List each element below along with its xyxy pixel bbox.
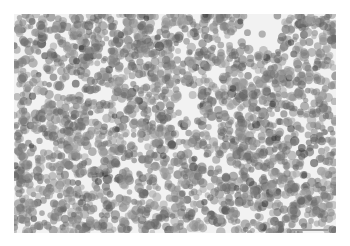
micrograph-image (14, 14, 336, 233)
cell-field (14, 14, 336, 233)
scale-bar (292, 229, 328, 231)
